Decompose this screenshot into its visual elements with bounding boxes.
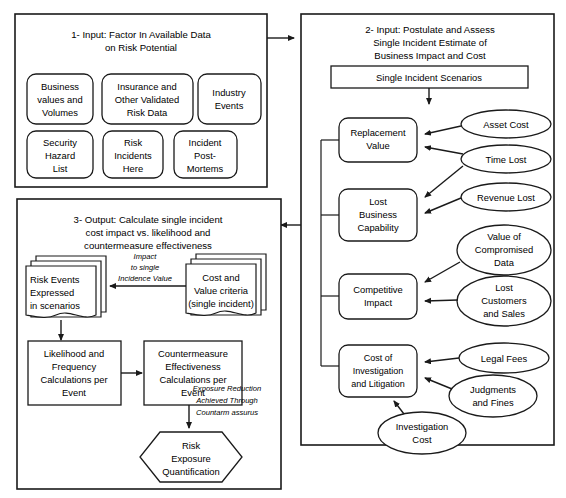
node-judgments-and-fines: Judgments and Fines xyxy=(449,375,537,417)
node-incident-post-mortems-line-2: Post- xyxy=(194,150,216,161)
edge-label-exposure-line-1: Exposure Reduction xyxy=(193,384,261,393)
node-time-lost: Time Lost xyxy=(461,145,551,173)
node-judgments-and-fines-line-1: Judgments xyxy=(470,384,516,395)
panel-2-title-line-2: Single Incident Estimate of xyxy=(373,37,487,48)
node-asset-cost: Asset Cost xyxy=(461,110,551,138)
edge-label-impact-line-2: to single xyxy=(131,263,159,272)
node-lost-business-capability-line-3: Capability xyxy=(357,222,398,233)
node-lost-customers-and-sales-line-3: and Sales xyxy=(483,308,525,319)
edge-label-impact-line-1: Impact xyxy=(134,252,158,261)
node-risk-exposure-quantification-line-1: Risk xyxy=(182,440,201,451)
panel-2-postulate-assess: 2- Input: Postulate and Assess Single In… xyxy=(301,14,554,454)
edge-lost-customers-to-competitive-impact xyxy=(425,300,458,301)
node-risk-exposure-quantification: Risk Exposure Quantification xyxy=(140,432,242,482)
edge-label-impact-line-3: Incidence Value xyxy=(118,274,172,283)
node-insurance-data-line-2: Other Validated xyxy=(115,94,179,105)
panel-2-title-line-1: 2- Input: Postulate and Assess xyxy=(365,24,495,35)
node-likelihood-frequency-line-3: Calculations per xyxy=(40,374,107,385)
node-security-hazard-list-line-3: List xyxy=(53,163,68,174)
node-likelihood-frequency: Likelihood and Frequency Calculations pe… xyxy=(28,341,121,405)
node-industry-events: Industry Events xyxy=(198,74,261,124)
node-risk-exposure-quantification-line-2: Exposure xyxy=(171,453,211,464)
node-business-values: Business values and Volumes xyxy=(27,74,93,124)
node-legal-fees-label: Legal Fees xyxy=(481,353,528,364)
node-likelihood-frequency-line-2: Frequency xyxy=(52,361,97,372)
node-investigation-cost-shape xyxy=(378,412,466,454)
node-lost-business-capability-line-1: Lost xyxy=(369,196,387,207)
node-revenue-lost-label: Revenue Lost xyxy=(477,192,535,203)
edge-label-exposure-line-3: Countarm assurus xyxy=(196,408,258,417)
doc-risk-events-line-1: Risk Events xyxy=(30,274,80,285)
panel-1-title-line-2: on Risk Potential xyxy=(105,42,177,53)
node-countermeasure-effectiveness-line-1: Countermeasure xyxy=(158,348,228,359)
node-insurance-data: Insurance and Other Validated Risk Data xyxy=(102,74,193,124)
diagram-canvas: 1- Input: Factor In Available Data on Ri… xyxy=(0,0,566,498)
node-industry-events-line-1: Industry xyxy=(212,87,246,98)
node-risk-incidents-here-line-3: Here xyxy=(123,163,143,174)
node-investigation-cost-line-2: Cost xyxy=(412,434,432,445)
panel-1-title-line-1: 1- Input: Factor In Available Data xyxy=(71,29,211,40)
node-competitive-impact-line-1: Competitive xyxy=(353,284,403,295)
node-cost-of-investigation: Cost of Investigation and Litigation xyxy=(339,345,417,397)
node-replacement-value-line-1: Replacement xyxy=(350,127,406,138)
node-incident-post-mortems-line-3: Mortems xyxy=(187,163,224,174)
doc-risk-events-line-2: Expressed xyxy=(30,287,74,298)
node-business-values-line-3: Volumes xyxy=(42,107,78,118)
node-single-incident-scenarios: Single Incident Scenarios xyxy=(331,66,528,88)
node-incident-post-mortems: Incident Post- Mortems xyxy=(174,131,237,178)
doc-cost-value-criteria-stack: Cost and Value criteria (single incident… xyxy=(186,254,266,315)
panel-3-title-line-3: countermeasure effectiveness xyxy=(84,240,212,251)
node-likelihood-frequency-line-1: Likelihood and xyxy=(44,348,104,359)
node-value-of-compromised-data: Value of Compromised Data xyxy=(457,225,551,275)
node-risk-incidents-here: Risk Incidents Here xyxy=(103,131,163,178)
node-replacement-value: Replacement Value xyxy=(339,118,417,162)
node-investigation-cost-line-1: Investigation xyxy=(396,421,449,432)
node-investigation-cost: Investigation Cost xyxy=(378,412,466,454)
node-competitive-impact-line-2: Impact xyxy=(364,297,393,308)
edge-label-exposure-line-2: Achieved Through xyxy=(195,396,258,405)
panel-3-title-line-1: 3- Output: Calculate single incident xyxy=(74,214,223,225)
node-legal-fees: Legal Fees xyxy=(459,343,549,373)
panel-3-output-calculation: 3- Output: Calculate single incident cos… xyxy=(17,199,281,489)
node-lost-business-capability: Lost Business Capability xyxy=(339,189,417,241)
doc-risk-events-stack: Risk Events Expressed in scenarios xyxy=(26,256,106,317)
risk-quantification-flow-diagram: 1- Input: Factor In Available Data on Ri… xyxy=(0,0,566,498)
node-industry-events-line-2: Events xyxy=(215,100,244,111)
node-risk-exposure-quantification-line-3: Quantification xyxy=(162,466,219,477)
node-lost-customers-and-sales-line-1: Lost xyxy=(495,282,513,293)
node-value-of-compromised-data-line-2: Compromised xyxy=(475,244,533,255)
doc-cost-value-line-1: Cost and xyxy=(202,272,240,283)
node-competitive-impact: Competitive Impact xyxy=(339,274,417,319)
panel-2-title-line-3: Business Impact and Cost xyxy=(374,50,486,61)
node-replacement-value-line-2: Value xyxy=(366,140,389,151)
node-single-incident-scenarios-label: Single Incident Scenarios xyxy=(376,72,482,83)
doc-risk-events-line-3: in scenarios xyxy=(30,300,80,311)
node-lost-business-capability-line-2: Business xyxy=(359,209,397,220)
node-insurance-data-line-3: Risk Data xyxy=(127,107,168,118)
node-revenue-lost: Revenue Lost xyxy=(461,183,551,211)
node-judgments-and-fines-line-2: and Fines xyxy=(472,397,513,408)
node-value-of-compromised-data-line-3: Data xyxy=(494,257,515,268)
panel-3-title-line-2: cost impact vs. likelihood and xyxy=(86,227,211,238)
node-cost-of-investigation-line-1: Cost of xyxy=(364,353,393,363)
node-industry-events-shape xyxy=(198,74,261,124)
node-incident-post-mortems-line-1: Incident xyxy=(189,137,222,148)
node-asset-cost-label: Asset Cost xyxy=(483,119,529,130)
node-risk-incidents-here-line-2: Incidents xyxy=(114,150,152,161)
node-likelihood-frequency-line-4: Event xyxy=(62,387,86,398)
node-value-of-compromised-data-line-1: Value of xyxy=(487,231,521,242)
node-cost-of-investigation-line-3: and Litigation xyxy=(351,379,405,389)
node-security-hazard-list: Security Hazard List xyxy=(27,131,93,178)
node-security-hazard-list-line-1: Security xyxy=(43,137,77,148)
doc-cost-value-line-2: Value criteria xyxy=(194,285,249,296)
node-business-values-line-2: values and xyxy=(37,94,82,105)
node-countermeasure-effectiveness-line-2: Effectiveness xyxy=(165,361,221,372)
node-lost-customers-and-sales: Lost Customers and Sales xyxy=(457,276,551,326)
node-cost-of-investigation-line-2: Investigation xyxy=(353,366,404,376)
node-insurance-data-line-1: Insurance and xyxy=(117,81,176,92)
doc-cost-value-line-3: (single incident) xyxy=(188,298,254,309)
node-business-values-line-1: Business xyxy=(41,81,79,92)
panel-1-input-available-data: 1- Input: Factor In Available Data on Ri… xyxy=(15,14,267,187)
node-security-hazard-list-line-2: Hazard xyxy=(45,150,75,161)
node-judgments-and-fines-shape xyxy=(449,375,537,417)
